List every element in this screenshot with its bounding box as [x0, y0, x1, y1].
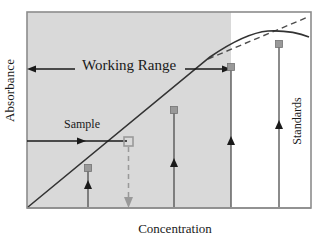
working-range-label: Working Range [78, 58, 180, 73]
x-axis-title: Concentration [100, 222, 250, 235]
standards-label: Standards [291, 86, 303, 156]
calibration-curve-figure: Absorbance Concentration Standards Worki… [0, 0, 324, 243]
y-axis-title: Absorbance [3, 58, 16, 124]
standard-4-group [275, 41, 283, 208]
sample-label: Sample [64, 118, 100, 130]
plot-canvas [0, 0, 324, 243]
